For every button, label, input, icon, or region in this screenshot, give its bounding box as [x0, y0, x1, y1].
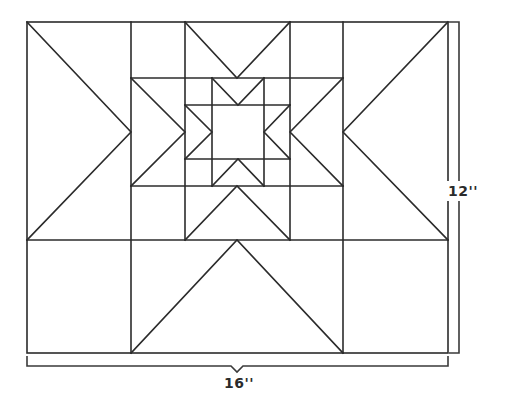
width-bracket: [27, 356, 448, 372]
width-dimension-label: 16'': [224, 375, 254, 391]
height-dimension-label: 12'': [447, 181, 479, 201]
inner-star: [185, 78, 290, 186]
quilt-diagram: [0, 0, 505, 410]
middle-flying-geese: [131, 22, 343, 240]
